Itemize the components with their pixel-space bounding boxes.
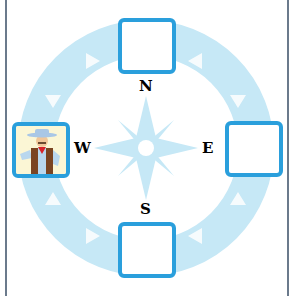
compass-center-dot <box>138 140 154 156</box>
label-east: E <box>202 141 213 156</box>
slot-west[interactable] <box>12 122 70 178</box>
slot-east[interactable] <box>225 121 283 177</box>
slot-north[interactable] <box>118 18 176 74</box>
slot-south[interactable] <box>118 222 176 278</box>
cowboy-character-icon <box>16 126 66 174</box>
label-south: S <box>140 202 151 217</box>
label-west: W <box>74 141 91 156</box>
label-north: N <box>139 79 153 94</box>
